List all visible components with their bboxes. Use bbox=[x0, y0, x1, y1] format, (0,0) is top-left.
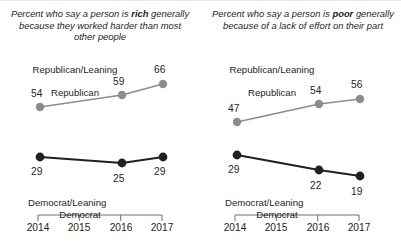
chart-panel-poor: Percent who say a person is poor general… bbox=[200, 0, 401, 245]
value-republican-poor-2017: 56 bbox=[351, 79, 362, 90]
line-democrat-poor bbox=[237, 155, 360, 176]
x-tick-rich-2017: 2017 bbox=[147, 222, 177, 233]
point-democrat-poor-2017 bbox=[356, 172, 365, 181]
series-label-republican-poor-line1: Republican/Leaning bbox=[230, 64, 315, 75]
series-label-democrat-poor-line2: Democrat bbox=[225, 209, 329, 220]
point-democrat-poor-2016 bbox=[315, 166, 324, 175]
point-democrat-rich-2014 bbox=[36, 153, 45, 162]
chart-panels: Percent who say a person is rich general… bbox=[0, 0, 401, 245]
x-tick-poor-2016: 2016 bbox=[303, 222, 333, 233]
value-republican-rich-2017: 66 bbox=[154, 64, 165, 75]
x-tick-poor-2015: 2015 bbox=[261, 222, 291, 233]
point-democrat-rich-2016 bbox=[118, 159, 127, 168]
line-republican-poor bbox=[237, 99, 360, 122]
series-label-republican-poor: Republican/Leaning Republican bbox=[225, 53, 319, 99]
x-tick-poor-2014: 2014 bbox=[220, 222, 250, 233]
value-democrat-rich-2016: 25 bbox=[113, 173, 124, 184]
value-republican-poor-2016: 54 bbox=[310, 85, 321, 96]
x-tick-poor-2017: 2017 bbox=[344, 222, 374, 233]
series-label-republican-poor-line2: Republican bbox=[248, 87, 296, 98]
point-republican-rich-2017 bbox=[159, 80, 167, 88]
x-tick-rich-2016: 2016 bbox=[106, 222, 136, 233]
series-label-democrat-rich-line2: Democrat bbox=[28, 209, 132, 220]
value-democrat-poor-2014: 29 bbox=[228, 164, 239, 175]
series-label-democrat-rich-line1: Democrat/Leaning bbox=[28, 197, 106, 208]
value-democrat-poor-2016: 22 bbox=[310, 180, 321, 191]
value-democrat-poor-2017: 19 bbox=[351, 186, 362, 197]
point-republican-rich-2014 bbox=[36, 103, 44, 111]
chart-panel-rich: Percent who say a person is rich general… bbox=[0, 0, 200, 245]
point-democrat-rich-2017 bbox=[159, 153, 168, 162]
value-democrat-rich-2017: 29 bbox=[154, 166, 165, 177]
point-republican-poor-2014 bbox=[233, 118, 241, 126]
x-tick-rich-2015: 2015 bbox=[64, 222, 94, 233]
series-label-republican-rich-line2: Republican bbox=[51, 87, 99, 98]
value-democrat-rich-2014: 29 bbox=[31, 166, 42, 177]
point-democrat-poor-2014 bbox=[233, 151, 242, 160]
value-republican-rich-2016: 59 bbox=[113, 76, 124, 87]
point-republican-poor-2017 bbox=[356, 95, 364, 103]
x-tick-rich-2014: 2014 bbox=[23, 222, 53, 233]
point-republican-poor-2016 bbox=[315, 100, 323, 108]
line-democrat-rich bbox=[40, 157, 163, 163]
value-republican-poor-2014: 47 bbox=[228, 103, 239, 114]
value-republican-rich-2014: 54 bbox=[31, 88, 42, 99]
series-label-republican-rich-line1: Republican/Leaning bbox=[33, 64, 118, 75]
series-label-democrat-poor-line1: Democrat/Leaning bbox=[225, 197, 303, 208]
